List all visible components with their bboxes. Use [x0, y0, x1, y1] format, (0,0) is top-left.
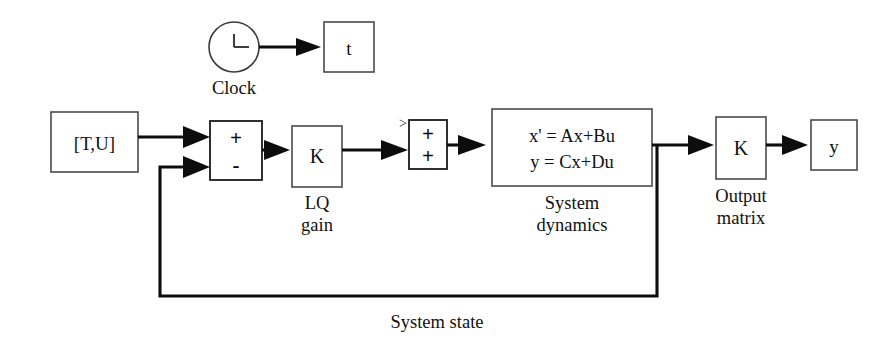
arrow-head-icon	[782, 135, 808, 155]
time-output-label: t	[346, 38, 352, 59]
system-dynamics-equation-2: y = Cx+Du	[530, 152, 614, 172]
source-block[interactable]: [T,U]	[51, 112, 138, 172]
arrow-head-icon	[688, 135, 714, 155]
wire-sum1-to-lq-gain	[262, 140, 290, 160]
system-dynamics-caption-line2: dynamics	[537, 215, 608, 235]
arrow-head-icon	[296, 38, 321, 56]
system-dynamics-caption-line1: System	[545, 193, 600, 213]
system-dynamics-equation-1: x' = Ax+Bu	[529, 126, 615, 146]
arrow-head-icon	[264, 140, 290, 160]
wire-system-dynamics-to-output-matrix	[652, 135, 714, 155]
wire-source-to-sum1	[138, 126, 210, 148]
output-matrix-label: K	[734, 137, 749, 159]
sum1-sign-top: +	[230, 126, 242, 150]
sum2-port-marker: >	[399, 116, 407, 131]
lq-gain-caption-line2: gain	[301, 215, 333, 235]
sum1-sign-bottom: -	[233, 153, 240, 177]
sum-block-1[interactable]: + -	[210, 121, 262, 180]
sum2-sign-bottom: +	[422, 144, 434, 168]
output-matrix-caption-line1: Output	[715, 186, 767, 206]
arrow-head-icon	[458, 135, 486, 155]
lq-gain-caption-line1: LQ	[305, 193, 330, 213]
wire-output-matrix-to-y	[766, 135, 808, 155]
arrow-head-icon	[381, 140, 408, 160]
output-matrix-block[interactable]: K	[716, 117, 766, 179]
time-output-block[interactable]: t	[324, 22, 374, 72]
output-signal-block[interactable]: y	[811, 120, 857, 170]
output-signal-label: y	[829, 136, 839, 157]
block-diagram-canvas: t Clock [T,U] + - K	[0, 0, 887, 343]
system-dynamics-block[interactable]: x' = Ax+Bu y = Cx+Du	[492, 109, 652, 186]
block-diagram-svg: t Clock [T,U] + - K	[0, 0, 887, 343]
clock-block[interactable]	[209, 22, 259, 72]
output-matrix-caption-line2: matrix	[717, 208, 766, 228]
lq-gain-label: K	[310, 145, 325, 167]
wire-clock-to-time	[259, 38, 321, 56]
lq-gain-block[interactable]: K	[292, 126, 342, 187]
arrow-head-icon	[183, 126, 210, 148]
arrow-head-icon	[183, 156, 210, 178]
clock-caption: Clock	[212, 78, 257, 98]
feedback-signal-label: System state	[390, 312, 483, 332]
sum2-sign-top: +	[422, 122, 434, 146]
sum-block-2[interactable]: + + >	[399, 116, 447, 170]
source-label: [T,U]	[74, 133, 115, 154]
wire-sum2-to-system-dynamics	[447, 135, 486, 155]
wire-lq-gain-to-sum2	[342, 140, 408, 160]
